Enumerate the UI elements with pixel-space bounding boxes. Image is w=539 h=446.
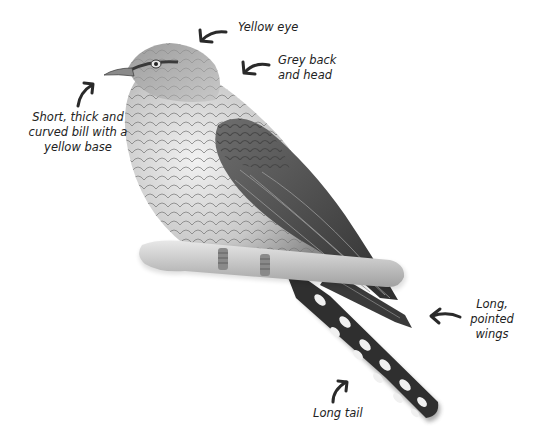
arrow-wings-icon xyxy=(431,309,460,323)
label-wings: Long, pointed wings xyxy=(462,297,522,342)
arrow-tail-icon xyxy=(333,381,347,402)
cuckoo-illustration xyxy=(0,0,539,446)
bird-head xyxy=(104,43,220,102)
label-tail: Long tail xyxy=(313,406,363,421)
arrow-yellow-eye-icon xyxy=(200,30,226,42)
arrow-grey-back-icon xyxy=(243,62,269,74)
bird-bill xyxy=(104,68,134,76)
label-yellow-eye: Yellow eye xyxy=(238,20,298,35)
bird-eye xyxy=(151,60,161,68)
arrow-bill-icon xyxy=(78,83,93,106)
label-grey-back: Grey back and head xyxy=(278,53,337,83)
label-bill: Short, thick and curved bill with a yell… xyxy=(18,110,138,155)
bird-diagram: Yellow eye Grey back and head Short, thi… xyxy=(0,0,539,446)
